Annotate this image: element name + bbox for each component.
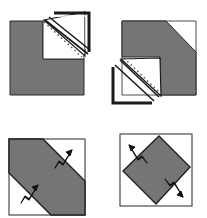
figure-root [0, 0, 207, 218]
panel-bottom-left [0, 115, 104, 218]
panel-bottom-right-canvas [104, 115, 207, 218]
panel-top-right [104, 0, 207, 115]
panel-top-left-canvas [0, 0, 104, 110]
panel-bottom-right [104, 115, 207, 218]
panel-top-left [0, 0, 104, 110]
panel-top-right-canvas [104, 0, 207, 115]
panel-bottom-left-canvas [0, 115, 104, 218]
